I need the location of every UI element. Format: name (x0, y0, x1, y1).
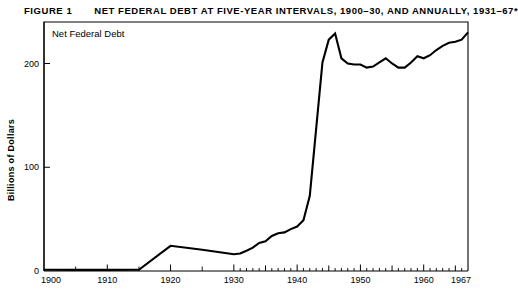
plot-frame (44, 22, 468, 271)
series-label: Net Federal Debt (52, 28, 125, 39)
x-axis: 19001910192019301940195019601967 (41, 265, 471, 286)
y-tick-label-100: 100 (24, 162, 39, 172)
x-tick-label-1940: 1940 (287, 275, 307, 285)
y-axis-title: Billions of Dollars (6, 119, 16, 201)
data-series-net-federal-debt (44, 32, 468, 269)
x-tick-label-1930: 1930 (224, 275, 244, 285)
x-tick-label-1950: 1950 (350, 275, 370, 285)
x-tick-label-1920: 1920 (161, 275, 181, 285)
x-tick-label-1910: 1910 (97, 275, 117, 285)
x-tick-label-1960: 1960 (414, 275, 434, 285)
y-tick-label-200: 200 (24, 59, 39, 69)
y-axis: 0100200 (24, 22, 50, 276)
y-tick-label-0: 0 (34, 266, 39, 276)
x-tick-label-1900: 1900 (41, 275, 61, 285)
x-tick-label-1967: 1967 (451, 275, 471, 285)
